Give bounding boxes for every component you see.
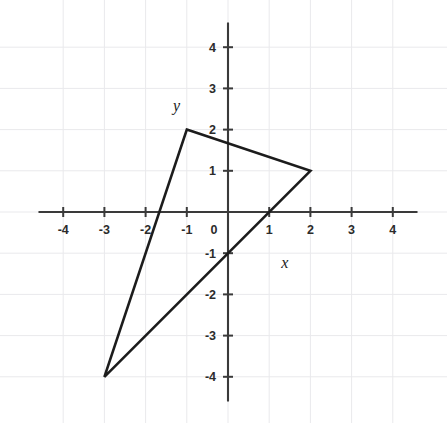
- axis-name-y: y: [171, 97, 181, 115]
- y-tick-label: 3: [209, 82, 216, 96]
- axis-name-labels: yx: [171, 97, 288, 271]
- x-tick-label: -4: [58, 223, 69, 237]
- y-tick-label: -2: [205, 288, 216, 302]
- axis-name-x: x: [280, 254, 288, 271]
- x-tick-label: 4: [389, 223, 396, 237]
- x-tick-label: -3: [99, 223, 110, 237]
- x-tick-label: 3: [348, 223, 355, 237]
- y-tick-label: 4: [209, 41, 216, 55]
- y-tick-label: 1: [209, 164, 216, 178]
- x-tick-label: -2: [140, 223, 151, 237]
- y-tick-label: 2: [209, 123, 216, 137]
- graph-figure: -4-3-2-11234-4-3-2-101234 yx: [0, 0, 447, 423]
- x-tick-label: -1: [181, 223, 192, 237]
- x-tick-label: 1: [266, 223, 273, 237]
- y-tick-label: -4: [205, 370, 216, 384]
- coordinate-plane: -4-3-2-11234-4-3-2-101234 yx: [0, 0, 447, 423]
- x-tick-label: 2: [307, 223, 314, 237]
- y-tick-label: -3: [205, 329, 216, 343]
- y-tick-label: -1: [205, 247, 216, 261]
- origin-label: 0: [211, 223, 218, 237]
